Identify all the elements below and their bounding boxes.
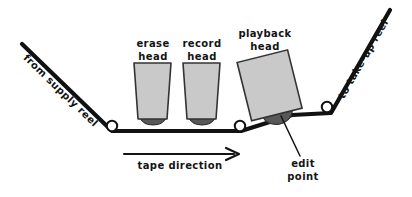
roller-supply-side	[107, 121, 117, 131]
record-head-label-line1: record	[180, 38, 224, 50]
edit-point-label-line2: point	[286, 171, 320, 183]
edit-point-label-line1: edit	[286, 158, 320, 170]
roller-center	[235, 121, 245, 131]
playback-head-body	[237, 50, 302, 121]
roller-takeup-side	[322, 102, 332, 112]
record-head-body	[183, 63, 220, 119]
erase-head-shape	[134, 63, 171, 125]
record-head-shape	[183, 63, 220, 125]
playback-head-shape	[237, 50, 304, 131]
playback-head-label-line2: head	[237, 41, 293, 53]
tape-path-diagram: from supply reel to take-up reel erase h…	[0, 0, 412, 197]
record-head-label-line2: head	[180, 51, 224, 63]
erase-head-label-line1: erase	[133, 38, 173, 50]
erase-head-label-line2: head	[133, 51, 173, 63]
tape-direction-arrow-icon	[124, 148, 239, 160]
erase-head-body	[134, 63, 171, 119]
tape-direction-label: tape direction	[134, 160, 226, 172]
edit-point-leader-line	[281, 116, 300, 156]
playback-head-label-line1: playback	[237, 28, 293, 40]
